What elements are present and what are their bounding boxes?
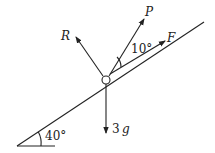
- force-R-arrow: [76, 37, 103, 76]
- force-P-label: P: [144, 5, 154, 19]
- force-diagram: 40° R P F 10° 3 g: [0, 0, 215, 153]
- force-weight-coefficient: 3: [112, 122, 120, 136]
- particle: [102, 76, 110, 84]
- P-angle-label: 10°: [131, 42, 152, 56]
- force-F-label: F: [166, 31, 176, 45]
- incline-angle-label: 40°: [45, 129, 66, 143]
- incline-angle-arc: [38, 132, 41, 146]
- force-weight-g: g: [122, 122, 130, 136]
- incline-plane: [17, 22, 204, 146]
- force-R-label: R: [60, 29, 70, 43]
